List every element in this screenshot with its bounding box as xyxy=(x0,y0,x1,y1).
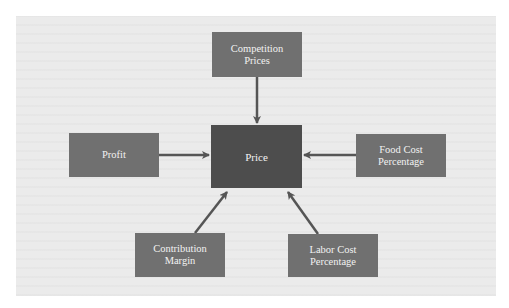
node-competition-prices: Competition Prices xyxy=(212,32,302,77)
center-label: Price xyxy=(245,151,268,163)
node-label-line2: Percentage xyxy=(378,156,424,168)
node-label-line1: Profit xyxy=(102,149,126,161)
node-price-center: Price xyxy=(211,125,302,188)
node-label-line2: Prices xyxy=(231,55,284,67)
node-profit: Profit xyxy=(69,133,159,177)
node-label-line2: Percentage xyxy=(310,256,357,268)
node-label-line2: Margin xyxy=(153,255,207,267)
node-label-line1: Competition xyxy=(231,43,284,55)
node-contribution-margin: Contribution Margin xyxy=(135,233,225,277)
node-label-line1: Food Cost xyxy=(378,144,424,156)
node-labor-cost-percentage: Labor Cost Percentage xyxy=(288,234,378,277)
node-label-line1: Labor Cost xyxy=(310,244,357,256)
node-food-cost-percentage: Food Cost Percentage xyxy=(356,134,446,177)
node-label-line1: Contribution xyxy=(153,243,207,255)
